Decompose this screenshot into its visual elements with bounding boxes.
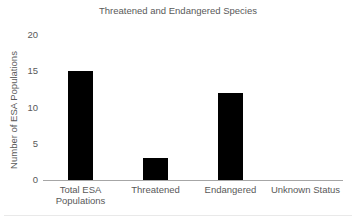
bar-threatened	[143, 158, 168, 180]
bar-chart-figure: Threatened and Endangered Species Number…	[0, 0, 356, 219]
x-category-label: Threatened	[118, 184, 193, 195]
x-category-label: Unknown Status	[268, 184, 343, 195]
y-tick-label: 10	[27, 102, 38, 114]
y-tick-label: 5	[33, 138, 38, 150]
plot-area: 05101520Total ESA PopulationsThreatenedE…	[0, 0, 356, 219]
y-tick-label: 20	[27, 29, 38, 41]
x-category-label: Endangered	[193, 184, 268, 195]
x-category-label: Total ESA Populations	[43, 184, 118, 206]
y-tick-label: 15	[27, 65, 38, 77]
bar-endangered	[218, 93, 243, 180]
y-tick-label: 0	[33, 174, 38, 186]
bar-total-esa-populations	[68, 71, 93, 180]
bottom-divider	[4, 215, 352, 216]
x-axis-line	[43, 180, 343, 181]
